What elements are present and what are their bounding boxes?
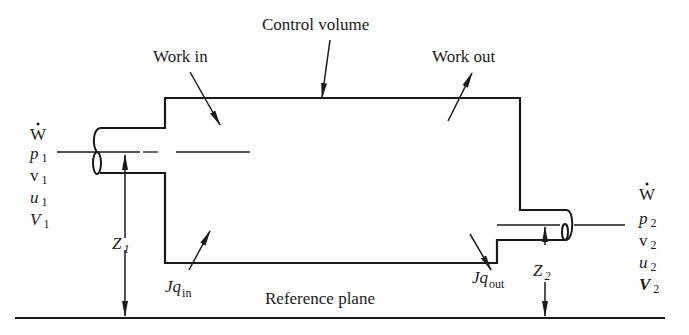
- work-out-label: Work out: [432, 47, 496, 66]
- control-volume-diagram: Reference plane Z1 Z2 Control volume Wor…: [0, 0, 689, 335]
- z2-label: Z2: [533, 261, 550, 283]
- inlet-pressure: p1: [29, 144, 48, 165]
- inlet-pipe-end: [93, 128, 101, 174]
- outlet-internal-energy: u2: [639, 253, 657, 274]
- inlet-internal-energy: u1: [30, 188, 48, 209]
- work-in-label: Work in: [153, 47, 208, 66]
- inlet-work-rate-dot: [37, 123, 40, 126]
- control-volume-outline: [100, 98, 567, 263]
- control-volume-arrow: [322, 40, 330, 98]
- heat-out-arrow: [470, 234, 491, 270]
- outlet-pressure: p2: [638, 209, 657, 230]
- inlet-work-rate: W: [30, 125, 47, 144]
- z1-label: Z1: [112, 234, 129, 256]
- control-volume-label: Control volume: [262, 15, 369, 34]
- inlet-velocity: V1: [30, 210, 49, 231]
- outlet-specific-volume: v2: [639, 231, 657, 252]
- heat-in-arrow: [189, 231, 210, 270]
- outlet-properties: W p2 v2 u2 V2: [638, 183, 659, 297]
- inlet-properties: W p1 v1 u1 V1: [29, 123, 49, 232]
- outlet-velocity: V2: [639, 275, 659, 296]
- reference-plane-label: Reference plane: [265, 289, 375, 308]
- heat-out-label: Jqout: [472, 268, 505, 291]
- outlet-work-rate: W: [639, 185, 656, 204]
- heat-in-label: Jqin: [165, 277, 191, 300]
- outlet-work-rate-dot: [646, 183, 649, 186]
- inlet-specific-volume: v1: [30, 166, 48, 187]
- outlet-pipe-end: [562, 210, 572, 240]
